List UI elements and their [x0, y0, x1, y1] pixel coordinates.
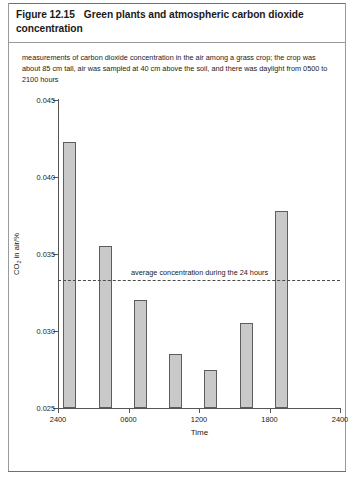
bar — [134, 300, 147, 408]
figure-page: Figure 12.15Green plants and atmospheric… — [0, 0, 354, 482]
average-line — [58, 280, 340, 281]
y-axis-title-post: in air/% — [12, 233, 21, 260]
x-tick-mark — [129, 409, 130, 413]
y-tick-label: 0.030 — [37, 327, 56, 336]
bar — [63, 142, 76, 408]
x-tick-mark — [199, 409, 200, 413]
x-tick-label: 1200 — [191, 415, 207, 424]
x-tick-label: 2400 — [50, 415, 66, 424]
average-line-label: average concentration during the 24 hour… — [131, 268, 268, 277]
y-tick-label: 0.040 — [37, 173, 56, 182]
y-axis-title-pre: CO — [12, 264, 21, 275]
x-tick-label: 1800 — [261, 415, 277, 424]
bar — [275, 211, 288, 408]
bar — [99, 246, 112, 408]
y-tick-label: 0.035 — [37, 250, 56, 259]
y-axis-title-sub: 2 — [15, 260, 21, 263]
x-tick-label: 2400 — [332, 415, 348, 424]
x-tick-mark — [340, 409, 341, 413]
bar — [204, 370, 217, 409]
y-axis-title: CO2 in air/% — [12, 233, 21, 275]
x-axis-title: Time — [58, 428, 341, 437]
bar — [169, 354, 182, 408]
y-tick-label: 0.045 — [37, 96, 56, 105]
x-tick-mark — [58, 409, 59, 413]
bar — [240, 323, 253, 408]
x-tick-mark — [270, 409, 271, 413]
x-tick-label: 0600 — [120, 415, 136, 424]
plot-area: 0.0250.0300.0350.0400.045average concent… — [58, 100, 340, 408]
bar-chart: CO2 in air/% 0.0250.0300.0350.0400.045av… — [0, 0, 354, 482]
y-tick-label: 0.025 — [37, 404, 56, 413]
